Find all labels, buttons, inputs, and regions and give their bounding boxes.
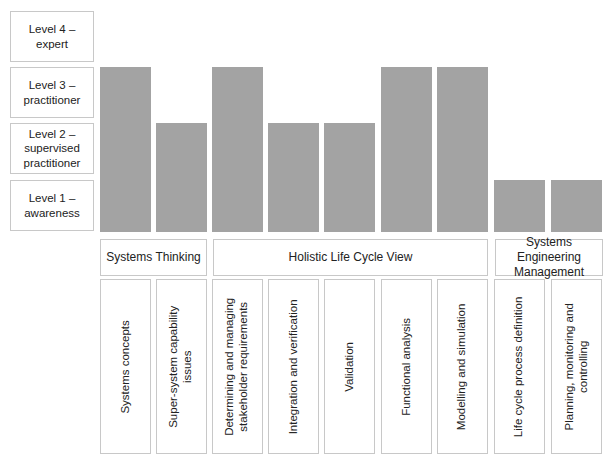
level-3-line1: Level 3 – <box>24 78 81 92</box>
category-label-line: controlling <box>577 303 591 430</box>
category-label-line: Determining and managing <box>224 297 238 435</box>
category-label: Planning, monitoring andcontrolling <box>563 303 591 430</box>
bar-modelling-and-simulation <box>437 67 488 232</box>
level-4-label: Level 4 –expert <box>10 11 94 62</box>
level-4-line1: Level 4 – <box>29 22 76 36</box>
category-modelling-and-simulation: Modelling and simulation <box>437 279 488 454</box>
level-2-line1: Level 2 – <box>24 127 81 141</box>
bar-integration-and-verification <box>268 123 319 232</box>
category-label-line: issues <box>182 305 196 427</box>
category-label-line: Life cycle process definition <box>513 296 527 437</box>
bar-determining-and-managing-stakeholder-requirements <box>212 67 263 232</box>
group-holistic-life-cycle-view-line1: Holistic Life Cycle View <box>289 250 413 265</box>
category-functional-analysis: Functional analysis <box>381 279 432 454</box>
group-systems-thinking-line1: Systems Thinking <box>106 250 200 265</box>
category-determining-and-managing-stakeholder-requirements: Determining and managingstakeholder requ… <box>212 279 263 454</box>
level-1-label: Level 1 –awareness <box>10 180 94 231</box>
bar-planning-monitoring-and-controlling <box>551 180 602 232</box>
category-integration-and-verification: Integration and verification <box>268 279 319 454</box>
bar-validation <box>324 123 375 232</box>
category-label-line: Integration and verification <box>287 299 301 434</box>
category-planning-monitoring-and-controlling: Planning, monitoring andcontrolling <box>551 279 602 454</box>
category-life-cycle-process-definition: Life cycle process definition <box>494 279 545 454</box>
bar-life-cycle-process-definition <box>494 180 545 232</box>
category-label-line: stakeholder requirements <box>238 297 252 435</box>
bar-super-system-capability-issues <box>156 123 207 232</box>
group-systems-engineering-management: Systems EngineeringManagement <box>495 239 603 276</box>
category-label: Integration and verification <box>287 299 301 434</box>
level-3-line2: practitioner <box>24 93 81 107</box>
level-2-line2: supervised <box>24 141 81 155</box>
level-1-line2: awareness <box>24 206 80 220</box>
category-label-line: Validation <box>343 342 357 392</box>
category-label: Systems concepts <box>119 320 133 413</box>
category-systems-concepts: Systems concepts <box>100 279 151 454</box>
level-4-line2: expert <box>29 37 76 51</box>
level-2-label: Level 2 –supervisedpractitioner <box>10 123 94 174</box>
category-label-line: Planning, monitoring and <box>563 303 577 430</box>
group-holistic-life-cycle-view: Holistic Life Cycle View <box>213 239 488 276</box>
category-label-line: Modelling and simulation <box>456 303 470 430</box>
category-label: Functional analysis <box>400 318 414 416</box>
group-systems-thinking: Systems Thinking <box>100 239 207 276</box>
category-label-line: Systems concepts <box>119 320 133 413</box>
category-label: Life cycle process definition <box>513 296 527 437</box>
category-label-line: Functional analysis <box>400 318 414 416</box>
group-sem-line2: Management <box>496 265 602 280</box>
category-validation: Validation <box>324 279 375 454</box>
bar-systems-concepts <box>100 67 151 232</box>
category-label: Modelling and simulation <box>456 303 470 430</box>
category-super-system-capability-issues: Super-system capabilityissues <box>156 279 207 454</box>
level-1-line1: Level 1 – <box>24 191 80 205</box>
category-label: Validation <box>343 342 357 392</box>
group-sem-line1: Systems Engineering <box>496 235 602 265</box>
category-label: Determining and managingstakeholder requ… <box>224 297 252 435</box>
level-3-label: Level 3 –practitioner <box>10 67 94 118</box>
level-2-line3: practitioner <box>24 156 81 170</box>
bar-functional-analysis <box>381 67 432 232</box>
category-label-line: Super-system capability <box>168 305 182 427</box>
category-label: Super-system capabilityissues <box>168 305 196 427</box>
